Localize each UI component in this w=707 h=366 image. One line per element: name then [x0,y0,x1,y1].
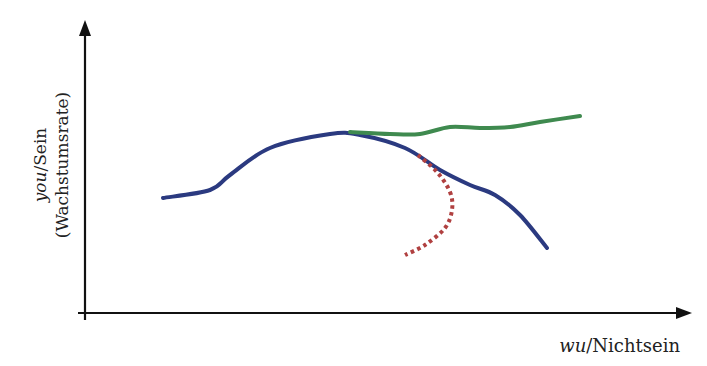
y-axis-label: you/Sein [30,128,50,204]
y-axis-arrow-icon [79,20,91,36]
x-axis-arrow-icon [676,307,692,319]
series-main-curve [163,133,547,248]
y-axis-sublabel: (Wachstumsrate) [52,92,72,238]
diagram: you/Sein (Wachstumsrate) wu/Nichtsein [0,0,707,366]
series-upper-branch [350,116,580,135]
series-lower-branch [405,155,452,255]
x-axis-label: wu/Nichtsein [559,335,680,356]
